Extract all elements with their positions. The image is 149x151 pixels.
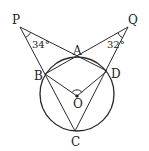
angle-label-q: 32° bbox=[107, 39, 125, 50]
geometry-diagram: P Q A B D C O 34° 32° bbox=[0, 0, 149, 151]
label-a: A bbox=[72, 44, 82, 58]
angle-label-p: 34° bbox=[32, 39, 50, 50]
angle-arc-p bbox=[26, 32, 31, 37]
label-p: P bbox=[12, 13, 20, 27]
circle-o bbox=[40, 57, 114, 131]
label-o: O bbox=[73, 97, 83, 111]
angle-arc-bod bbox=[72, 90, 82, 93]
segment-ob bbox=[45, 74, 77, 96]
angle-arc-q bbox=[118, 33, 123, 38]
label-q: Q bbox=[128, 13, 138, 27]
label-b: B bbox=[34, 69, 43, 83]
diagram-svg: P Q A B D C O 34° 32° bbox=[0, 0, 149, 151]
label-d: D bbox=[111, 67, 121, 81]
label-c: C bbox=[71, 135, 80, 149]
